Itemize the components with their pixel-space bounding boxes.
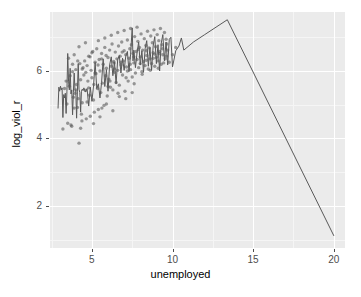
scatter-point — [118, 95, 121, 98]
scatter-point — [81, 67, 84, 70]
scatter-point — [157, 39, 160, 42]
scatter-point — [70, 125, 73, 128]
scatter-point — [156, 33, 159, 36]
x-axis-title: unemployed — [0, 268, 361, 280]
scatter-point — [135, 25, 138, 28]
scatter-point — [123, 90, 126, 93]
scatter-point — [116, 92, 119, 95]
x-tick-mark — [92, 249, 93, 252]
scatter-point — [90, 76, 93, 79]
y-tick-label: 2 — [20, 201, 42, 211]
y-axis-title: log_viol_r — [10, 64, 22, 184]
scatter-point — [97, 39, 100, 42]
scatter-point — [74, 68, 77, 71]
scatter-point — [72, 53, 75, 56]
scatter-point — [131, 91, 134, 94]
scatter-point — [85, 117, 88, 120]
scatter-point — [121, 50, 124, 53]
scatter-point — [118, 83, 121, 86]
scatter-point — [76, 59, 79, 62]
scatter-point — [66, 122, 69, 125]
scatter-point — [111, 88, 114, 91]
scatter-point — [77, 141, 80, 144]
scatter-point — [124, 97, 127, 100]
scatter-point — [104, 54, 107, 57]
scatter-point — [121, 73, 124, 76]
scatter-point — [143, 37, 146, 40]
scatter-point — [152, 28, 155, 31]
y-tick-label: 6 — [20, 66, 42, 76]
scatter-point — [89, 114, 92, 117]
scatter-point — [125, 65, 128, 68]
scatter-point — [159, 27, 162, 30]
scatter-point — [100, 52, 103, 55]
scatter-point — [124, 76, 127, 79]
scatter-point — [86, 79, 89, 82]
x-tick-mark — [334, 249, 335, 252]
scatter-point — [164, 38, 167, 41]
scatter-point — [105, 102, 108, 105]
scatter-point — [116, 31, 119, 34]
x-tick-mark — [253, 249, 254, 252]
scatter-point — [79, 127, 82, 130]
scatter-point — [103, 46, 106, 49]
x-tick-label: 20 — [314, 255, 354, 265]
scatter-point — [110, 42, 113, 45]
scatter-point — [97, 108, 100, 111]
plot-panel — [50, 12, 345, 248]
scatter-point — [139, 32, 142, 35]
x-tick-label: 10 — [153, 255, 193, 265]
scatter-point — [80, 119, 83, 122]
scatter-point — [131, 75, 134, 78]
scatter-point — [85, 64, 88, 67]
scatter-point — [137, 66, 140, 69]
trend-line — [58, 20, 334, 236]
scatter-point — [90, 51, 93, 54]
scatter-point — [93, 110, 96, 113]
scatter-point — [163, 31, 166, 34]
scatter-point — [106, 94, 109, 97]
scatter-point — [126, 79, 129, 82]
y-tick-mark — [46, 206, 49, 207]
data-layer — [50, 12, 345, 248]
scatter-point — [88, 55, 91, 58]
scatter-point — [103, 36, 106, 39]
chart-root: 2465101520 unemployed log_viol_r — [0, 0, 361, 297]
scatter-point — [83, 59, 86, 62]
scatter-point — [117, 44, 120, 47]
y-tick-label: 4 — [20, 133, 42, 143]
scatter-point — [146, 30, 149, 33]
scatter-point — [95, 47, 98, 50]
scatter-point — [84, 71, 87, 74]
scatter-point — [100, 106, 103, 109]
scatter-point — [149, 34, 152, 37]
scatter-point — [120, 40, 123, 43]
scatter-point — [98, 69, 101, 72]
y-tick-mark — [46, 138, 49, 139]
x-tick-label: 15 — [233, 255, 273, 265]
scatter-point — [110, 34, 113, 37]
scatter-point — [141, 73, 144, 76]
scatter-point — [63, 87, 66, 90]
scatter-point — [89, 69, 92, 72]
scatter-point — [84, 41, 87, 44]
scatter-point — [111, 109, 114, 112]
scatter-point — [96, 63, 99, 66]
scatter-point — [61, 127, 64, 130]
scatter-point — [92, 122, 95, 125]
scatter-point — [79, 78, 82, 81]
scatter-point — [132, 82, 135, 85]
scatter-point — [108, 48, 111, 51]
scatter-point — [80, 112, 83, 115]
y-tick-mark — [46, 71, 49, 72]
scatter-point — [122, 29, 125, 32]
scatter-point — [114, 50, 117, 53]
scatter-point — [77, 45, 80, 48]
scatter-point — [134, 71, 137, 74]
x-tick-mark — [173, 249, 174, 252]
scatter-point — [133, 35, 136, 38]
scatter-point — [126, 38, 129, 41]
scatter-point — [98, 115, 101, 118]
scatter-point — [153, 65, 156, 68]
scatter-point — [71, 63, 74, 66]
